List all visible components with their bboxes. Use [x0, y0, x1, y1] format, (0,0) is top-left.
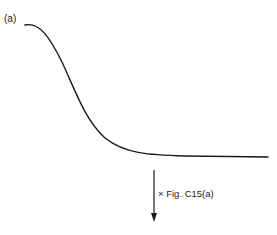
down-arrow-icon — [151, 170, 157, 222]
figure-reference-label: × Fig. C15(a) — [158, 188, 214, 199]
sigmoid-curve — [25, 25, 268, 157]
diagram-canvas — [0, 0, 277, 235]
